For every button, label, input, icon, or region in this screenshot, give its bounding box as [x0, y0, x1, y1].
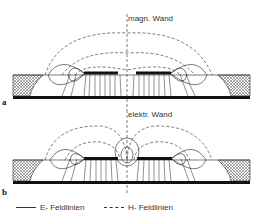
diagram-a — [13, 14, 250, 110]
solid-line-swatch — [16, 207, 36, 208]
dashed-line-swatch — [104, 207, 124, 208]
wall-label-magnetic: magn. Wand — [128, 14, 173, 23]
diagram-b — [13, 110, 250, 195]
wall-label-electric: elektr. Wand — [128, 110, 172, 119]
panel-label-b: b — [2, 187, 7, 197]
legend-h-field: H- Feldlinien — [104, 203, 173, 212]
field-line-diagram — [0, 0, 260, 218]
panel-label-a: a — [2, 97, 7, 107]
legend-e-field: E- Feldlinien — [16, 203, 84, 212]
legend-e-field-label: E- Feldlinien — [40, 203, 84, 212]
legend-h-field-label: H- Feldlinien — [128, 203, 173, 212]
